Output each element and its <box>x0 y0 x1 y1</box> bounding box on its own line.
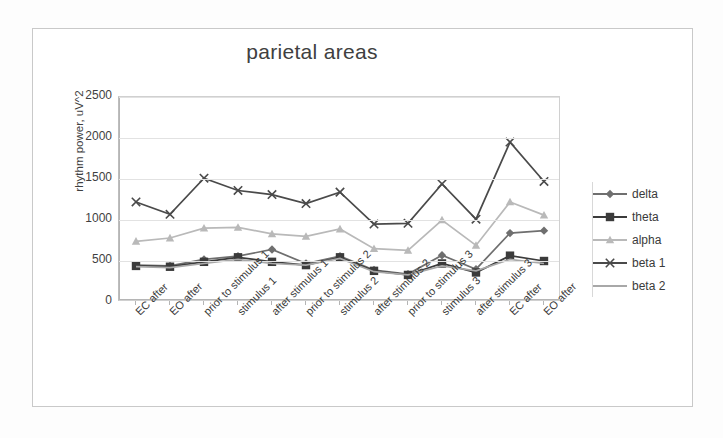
legend-item-beta-1[interactable]: beta 1 <box>593 251 689 274</box>
gridline <box>119 179 559 180</box>
chart-screenshot: parietal areas rhythm power, uV^2 250020… <box>0 0 723 438</box>
y-axis-tick: 1500 <box>66 170 112 184</box>
legend-marker-icon <box>593 188 627 200</box>
x-axis-tick-mark <box>373 301 374 305</box>
y-axis-tick: 1000 <box>66 211 112 225</box>
gridline <box>119 220 559 221</box>
legend-label: beta 1 <box>632 256 665 270</box>
legend-marker-icon <box>593 257 627 269</box>
x-axis-tick-mark <box>441 301 442 305</box>
x-axis-tick-mark <box>203 301 204 305</box>
series-alpha <box>132 198 548 254</box>
x-axis-tick-mark <box>305 301 306 305</box>
x-axis-tick-mark <box>271 301 272 305</box>
x-axis-tick-mark <box>543 301 544 305</box>
legend-item-alpha[interactable]: alpha <box>593 228 689 251</box>
series-beta-1 <box>132 138 548 228</box>
x-axis-tick-mark <box>509 301 510 305</box>
x-axis-tick-mark <box>407 301 408 305</box>
x-axis-tick-mark <box>237 301 238 305</box>
y-axis-tick-labels: 25002000150010005000 <box>60 96 112 301</box>
chart-title: parietal areas <box>32 40 592 64</box>
x-axis-tick-mark <box>475 301 476 305</box>
legend-label: delta <box>632 187 658 201</box>
x-axis-tick-labels: EC afterEO afterprior to stimulus 1stimu… <box>0 301 723 411</box>
legend-label: alpha <box>632 233 661 247</box>
y-axis-tick: 2500 <box>66 88 112 102</box>
gridline <box>119 97 559 98</box>
chart-legend: deltathetaalphabeta 1beta 2 <box>592 182 689 297</box>
x-axis-tick-mark <box>135 301 136 305</box>
legend-label: beta 2 <box>632 279 665 293</box>
y-axis-tick: 2000 <box>66 129 112 143</box>
gridline <box>119 261 559 262</box>
x-axis-tick-mark <box>169 301 170 305</box>
legend-item-beta-2[interactable]: beta 2 <box>593 274 689 297</box>
y-axis-line <box>119 97 120 300</box>
legend-marker-icon <box>593 211 627 223</box>
y-axis-tick: 500 <box>66 252 112 266</box>
legend-item-delta[interactable]: delta <box>593 182 689 205</box>
x-axis-tick-mark <box>339 301 340 305</box>
legend-marker-icon <box>593 234 627 246</box>
legend-label: theta <box>632 210 659 224</box>
legend-marker-icon <box>593 280 627 292</box>
plot-area <box>118 96 560 301</box>
legend-item-theta[interactable]: theta <box>593 205 689 228</box>
gridline <box>119 138 559 139</box>
